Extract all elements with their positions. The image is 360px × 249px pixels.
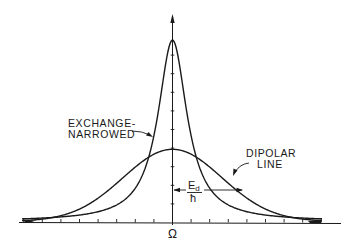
center-frequency-label: Ω bbox=[168, 227, 177, 241]
x-axis bbox=[19, 223, 341, 224]
width-arrow-right-head-icon bbox=[237, 188, 244, 192]
line-shape-diagram: EXCHANGE- NARROWED DIPOLAR LINE Ed ħ Ω bbox=[0, 0, 360, 249]
y-axis-arrowhead-icon bbox=[170, 14, 174, 23]
exchange-narrowed-arrowhead-icon bbox=[146, 132, 153, 137]
width-numerator: Ed bbox=[188, 179, 200, 193]
dipolar-label-line2: LINE bbox=[257, 158, 283, 170]
exchange-narrowed-label-line2: NARROWED bbox=[68, 128, 135, 140]
width-arrow-left-head-icon bbox=[174, 188, 181, 192]
width-denominator: ħ bbox=[190, 192, 196, 204]
